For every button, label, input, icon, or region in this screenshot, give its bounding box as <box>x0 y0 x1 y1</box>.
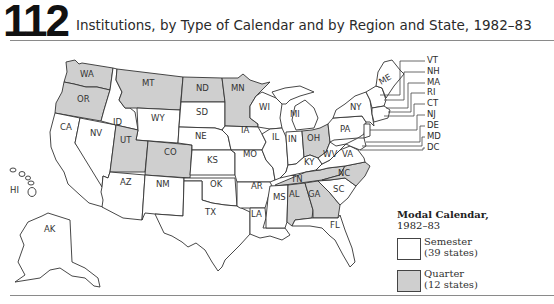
legend-quarter-label: Quarter <box>424 268 478 279</box>
label-VA: VA <box>342 149 353 159</box>
label-AZ: AZ <box>120 177 132 187</box>
label-MS: MS <box>273 192 286 202</box>
label-IL: IL <box>272 132 280 142</box>
callout-CT: CT <box>427 99 438 108</box>
label-HI: HI <box>10 185 19 195</box>
label-MI: MI <box>290 109 300 119</box>
label-TX: TX <box>204 207 216 217</box>
label-NV: NV <box>90 128 102 138</box>
legend-item-quarter: Quarter (12 states) <box>397 268 547 296</box>
legend-semester-count: (39 states) <box>424 247 478 258</box>
callout-RI: RI <box>427 88 435 97</box>
label-WY: WY <box>151 113 165 123</box>
label-IA: IA <box>241 125 250 135</box>
label-CA: CA <box>60 122 72 132</box>
legend-item-semester: Semester (39 states) <box>397 236 547 264</box>
label-GA: GA <box>308 189 321 199</box>
callout-MD: MD <box>427 132 441 141</box>
label-ID: ID <box>113 117 123 127</box>
legend-quarter-count: (12 states) <box>424 279 478 290</box>
callout-MA: MA <box>427 78 440 87</box>
bottom-rule <box>10 295 554 296</box>
map-legend: Modal Calendar, 1982–83 Semester (39 sta… <box>397 209 547 296</box>
label-NE: NE <box>195 131 207 141</box>
legend-subtitle: 1982–83 <box>397 220 547 232</box>
label-CO: CO <box>164 147 177 157</box>
label-LA: LA <box>251 209 262 219</box>
state-FL <box>292 215 355 267</box>
label-TN: TN <box>290 174 303 184</box>
label-NY: NY <box>350 102 362 112</box>
label-AR: AR <box>251 181 263 191</box>
label-OR: OR <box>77 94 90 104</box>
label-MT: MT <box>142 78 155 88</box>
callout-VT: VT <box>427 56 438 65</box>
legend-semester-label: Semester <box>424 236 478 247</box>
label-PA: PA <box>340 124 351 134</box>
label-WV: WV <box>323 149 337 159</box>
state-AK <box>15 213 100 287</box>
state-MT <box>116 69 183 110</box>
callout-NH: NH <box>427 67 440 76</box>
legend-title: Modal Calendar, <box>397 209 547 220</box>
label-KS: KS <box>207 155 218 165</box>
label-AL: AL <box>289 189 300 199</box>
quarter-swatch <box>397 270 421 292</box>
label-OK: OK <box>210 179 223 189</box>
label-NC: NC <box>338 168 350 178</box>
callout-DC: DC <box>427 143 439 152</box>
label-FL: FL <box>330 220 340 230</box>
label-OH: OH <box>307 133 320 143</box>
label-SD: SD <box>196 107 208 117</box>
label-MN: MN <box>231 83 245 93</box>
label-MO: MO <box>243 149 257 159</box>
callout-NJ: NJ <box>427 110 436 119</box>
label-SC: SC <box>333 184 344 194</box>
label-ND: ND <box>196 83 209 93</box>
label-NM: NM <box>156 179 170 189</box>
label-WA: WA <box>80 69 94 79</box>
label-UT: UT <box>120 135 132 145</box>
semester-swatch <box>397 238 421 260</box>
state-NJ <box>364 124 370 138</box>
callout-DE: DE <box>427 121 439 130</box>
label-AK: AK <box>44 224 56 234</box>
label-IN: IN <box>288 134 297 144</box>
label-WI: WI <box>259 102 270 112</box>
label-KY: KY <box>304 157 315 167</box>
